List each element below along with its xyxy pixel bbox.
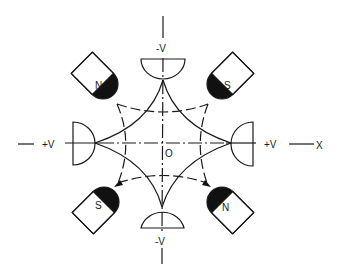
- magnet-top-left: [71, 52, 124, 105]
- electrode-right: [231, 122, 253, 166]
- label-magnet-top-left: N: [95, 80, 102, 91]
- label-magnet-bottom-left: S: [95, 200, 102, 211]
- label-origin: O: [165, 148, 173, 159]
- label-electrode-top: -V: [156, 43, 166, 54]
- label-electrode-right: +V: [264, 139, 277, 150]
- quadrupole-diagram: -V -V +V +V X O N S S N: [0, 0, 338, 277]
- label-magnet-bottom-right: N: [222, 202, 229, 213]
- label-electrode-left: +V: [42, 139, 55, 150]
- label-magnet-top-right: S: [224, 80, 231, 91]
- magnet-top-right: [201, 52, 254, 105]
- label-electrode-bottom: -V: [155, 236, 165, 247]
- label-x-axis: X: [316, 140, 323, 151]
